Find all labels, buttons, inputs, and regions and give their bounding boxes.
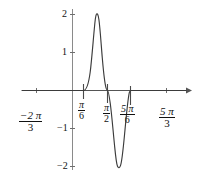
trig-function-plot: 2 1 −1 −2 −2 π 3 π 6 π 2 5 π 6 5 π 3: [0, 0, 203, 170]
x-tick-label-5pi-over-3-denominator: 3: [164, 118, 170, 129]
x-tick-label-minus-2pi-over-3: −2 π 3: [19, 110, 42, 133]
x-tick-marks: [37, 84, 167, 105]
x-tick-label-5pi-over-6-denominator: 6: [125, 115, 130, 125]
y-tick-label-2: 2: [62, 8, 67, 19]
x-tick-label-pi-over-2-denominator: 2: [104, 114, 109, 124]
plot-canvas: [0, 0, 203, 170]
x-axis-arrow-icon: [186, 88, 192, 94]
x-tick-label-minus-2pi-over-3-denominator: 3: [28, 122, 34, 133]
x-tick-label-pi-over-2: π 2: [103, 103, 110, 124]
y-tick-label-minus-2: −2: [57, 160, 68, 170]
y-tick-label-1: 1: [62, 46, 67, 57]
x-tick-label-pi-over-6: π 6: [78, 100, 85, 121]
y-tick-label-minus-1: −1: [57, 122, 68, 133]
x-tick-label-pi-over-6-denominator: 6: [79, 111, 84, 121]
x-tick-label-5pi-over-6: 5 π 6: [120, 104, 135, 125]
x-tick-label-5pi-over-3: 5 π 3: [159, 106, 175, 129]
